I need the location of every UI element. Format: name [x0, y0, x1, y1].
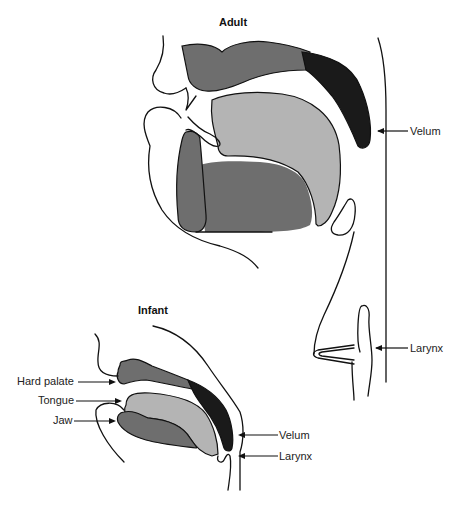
tongue-label: Tongue — [38, 394, 74, 406]
infant-velum-label: Velum — [279, 429, 310, 441]
vocal-tract-diagram: Adult Velum Larynx Infant Hard palate To… — [0, 0, 458, 509]
infant-velum-arrowhead — [238, 432, 245, 438]
adult-vocal-folds — [314, 345, 355, 364]
adult-jaw — [198, 161, 312, 232]
adult-lower-incisor — [177, 131, 206, 232]
adult-larynx-arrowhead — [375, 345, 382, 351]
jaw-arrowhead — [109, 418, 116, 424]
adult-velum-arrowhead — [377, 128, 384, 134]
infant-larynx-label: Larynx — [279, 450, 313, 462]
adult-nose-outline — [153, 36, 186, 94]
adult-hard-palate — [182, 41, 310, 91]
adult-velum-label: Velum — [410, 125, 441, 137]
hard-palate-label: Hard palate — [17, 375, 74, 387]
adult-pharynx-back-wall — [378, 38, 386, 382]
infant-hard-palate — [117, 359, 192, 389]
tongue-arrowhead — [115, 398, 122, 404]
adult-pharynx-front-outline — [314, 232, 354, 354]
infant-lower-lip-outline — [96, 403, 124, 462]
infant-epiglottis-outline — [218, 454, 231, 490]
adult-larynx-outline — [352, 306, 372, 401]
jaw-label: Jaw — [53, 414, 73, 426]
adult-title: Adult — [219, 16, 247, 28]
hard-palate-arrowhead — [109, 379, 116, 385]
infant-larynx-arrowhead — [238, 453, 245, 459]
infant-nose-outline — [95, 334, 118, 376]
adult-larynx-label: Larynx — [410, 342, 444, 354]
infant-title: Infant — [138, 304, 168, 316]
adult-upper-lip-outline — [186, 88, 196, 110]
